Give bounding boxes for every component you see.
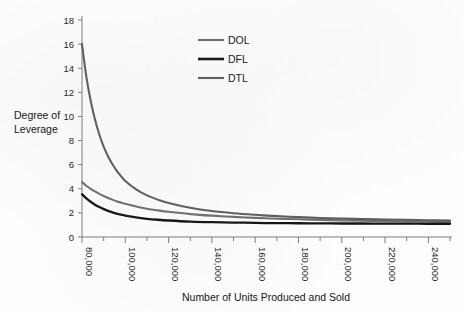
y-tick-label-2: 2 bbox=[69, 207, 74, 218]
y-axis-title-line1: Degree of bbox=[14, 109, 60, 121]
x-tick-label-220000: 220,000 bbox=[387, 247, 398, 281]
x-tick-label-200000: 200,000 bbox=[343, 247, 354, 281]
chart-canvas: 02468101214161880,000100,000120,000140,0… bbox=[0, 0, 464, 312]
leverage-line-chart: 02468101214161880,000100,000120,000140,0… bbox=[0, 0, 464, 312]
legend-label-dfl: DFL bbox=[228, 53, 248, 65]
y-tick-label-0: 0 bbox=[69, 232, 74, 243]
y-tick-label-10: 10 bbox=[63, 111, 74, 122]
x-tick-label-180000: 180,000 bbox=[300, 247, 311, 281]
x-tick-label-140000: 140,000 bbox=[213, 247, 224, 281]
x-tick-label-100000: 100,000 bbox=[127, 247, 138, 281]
x-tick-label-120000: 120,000 bbox=[170, 247, 181, 281]
y-tick-label-12: 12 bbox=[63, 87, 74, 98]
legend-label-dtl: DTL bbox=[228, 72, 248, 84]
x-tick-label-80000: 80,000 bbox=[84, 247, 95, 276]
x-tick-label-160000: 160,000 bbox=[257, 247, 268, 281]
y-axis-title-line2: Leverage bbox=[14, 123, 58, 135]
y-tick-label-6: 6 bbox=[69, 159, 74, 170]
y-tick-label-8: 8 bbox=[69, 135, 74, 146]
legend-label-dol: DOL bbox=[228, 34, 250, 46]
x-tick-label-240000: 240,000 bbox=[430, 247, 441, 281]
y-tick-label-14: 14 bbox=[63, 63, 74, 74]
x-axis-title: Number of Units Produced and Sold bbox=[182, 291, 350, 303]
y-tick-label-4: 4 bbox=[69, 183, 74, 194]
series-line-dtl bbox=[82, 44, 450, 220]
y-tick-label-18: 18 bbox=[63, 15, 74, 26]
y-tick-label-16: 16 bbox=[63, 39, 74, 50]
